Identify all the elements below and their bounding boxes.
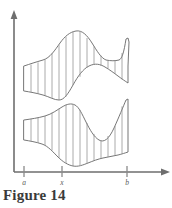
figure-caption: Figure 14 [3,186,66,204]
lower-region-boundary [24,99,128,166]
upper-region-boundary [24,31,129,100]
tick-label-b: b [125,178,129,187]
vertical-axis [11,10,18,172]
horizontal-axis [14,169,170,176]
figure-container: a x b [0,0,172,208]
vertical-axis-arrowhead [11,10,18,19]
horizontal-axis-arrowhead [161,169,170,176]
lower-region [24,99,128,166]
figure-graphic: a x b [0,0,172,208]
upper-region [24,31,129,100]
